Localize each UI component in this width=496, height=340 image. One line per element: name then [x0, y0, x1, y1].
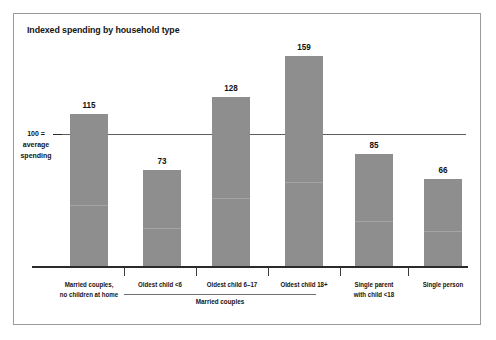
- axis-tick: [408, 268, 409, 276]
- x-axis-label-line: Oldest child <6: [127, 280, 194, 290]
- x-axis-label-line: Married couples,: [43, 280, 134, 290]
- x-axis-label-line: Oldest child 6–17: [197, 280, 268, 290]
- group-bracket-label: Married couples: [131, 298, 310, 305]
- bar-value-label: 115: [72, 100, 106, 110]
- bar-oldest-child-under-6[interactable]: [143, 170, 181, 266]
- bar-value-label: 85: [357, 140, 391, 150]
- x-axis-label-line: no children at home: [43, 290, 134, 300]
- group-bracket-line: [124, 294, 316, 295]
- x-axis-label-line: with child <18: [341, 290, 408, 300]
- bar-value-label: 159: [287, 42, 321, 52]
- axis-tick: [196, 268, 197, 276]
- x-axis-label-oldest-child-6-17: Oldest child 6–17: [197, 280, 268, 290]
- x-axis-label-line: Single person: [410, 280, 475, 290]
- x-axis-label-married-couples-no-children: Married couples, no children at home: [43, 280, 134, 299]
- bar-value-label: 73: [145, 156, 179, 166]
- bar-oldest-child-18-plus[interactable]: [285, 56, 323, 266]
- y-axis-annotation: 100 = average spending: [18, 128, 55, 161]
- x-axis-label-line: Oldest child 18+: [269, 280, 340, 290]
- bar-value-label: 66: [426, 165, 460, 175]
- reference-line-100: [62, 134, 466, 135]
- plot-area: 100 = average spending 115 73 128 159 85…: [0, 0, 496, 340]
- axis-tick: [268, 268, 269, 276]
- bar-oldest-child-6-17[interactable]: [212, 97, 250, 266]
- axis-tick: [340, 268, 341, 276]
- y-axis-annotation-line-3: spending: [18, 150, 55, 161]
- axis-tick: [124, 268, 125, 276]
- x-axis-label-single-person: Single person: [410, 280, 475, 290]
- bar-single-person[interactable]: [424, 179, 462, 266]
- bar-married-couples-no-children[interactable]: [70, 114, 108, 266]
- y-axis-annotation-line-1: 100 =: [18, 128, 55, 139]
- x-axis-label-oldest-child-18-plus: Oldest child 18+: [269, 280, 340, 290]
- y-axis-annotation-line-2: average: [18, 139, 55, 150]
- bar-value-label: 128: [214, 83, 248, 93]
- chart-page: Indexed spending by household type 100 =…: [0, 0, 496, 340]
- x-axis-baseline: [32, 266, 468, 268]
- x-axis-label-single-parent: Single parent with child <18: [341, 280, 408, 299]
- bar-single-parent-with-child-under-18[interactable]: [355, 154, 393, 266]
- x-axis-label-line: Single parent: [341, 280, 408, 290]
- x-axis-label-oldest-child-under-6: Oldest child <6: [127, 280, 194, 290]
